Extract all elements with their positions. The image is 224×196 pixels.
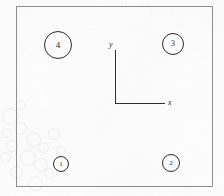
callout-circle-1: 1 (53, 156, 69, 172)
figure-canvas: 1111111111 1 111 11 1111 y x 4312 (0, 0, 224, 196)
y-axis-label: y (109, 41, 113, 49)
callout-circle-3: 3 (162, 33, 184, 55)
coordinate-axes: y x (0, 0, 224, 196)
callout-label: 2 (169, 159, 173, 166)
callout-circle-2: 2 (162, 154, 180, 172)
callout-label: 4 (56, 40, 61, 49)
callout-label: 3 (171, 40, 175, 48)
callout-label: 1 (59, 160, 63, 167)
x-axis-line (115, 103, 165, 104)
y-axis-line (115, 50, 116, 103)
x-axis-label: x (168, 99, 172, 107)
callout-circle-4: 4 (44, 31, 72, 59)
